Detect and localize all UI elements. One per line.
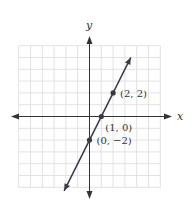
point-label: (1, 0) bbox=[105, 122, 132, 133]
point-marker bbox=[87, 138, 92, 143]
x-axis-left-arrow-icon bbox=[11, 114, 19, 120]
coordinate-plane: x y (2, 2)(1, 0)(0, −2) bbox=[0, 0, 192, 207]
y-axis-label: y bbox=[85, 19, 93, 32]
x-axis-right-arrow-icon bbox=[164, 114, 172, 120]
y-axis-up-arrow-icon bbox=[87, 36, 93, 44]
point-label: (0, −2) bbox=[97, 135, 132, 146]
point-marker bbox=[111, 90, 116, 95]
y-axis-down-arrow-icon bbox=[87, 191, 93, 199]
x-axis-label: x bbox=[177, 110, 184, 123]
x-axis: x bbox=[11, 110, 184, 123]
point-label: (2, 2) bbox=[120, 88, 147, 99]
point-marker bbox=[99, 114, 104, 119]
